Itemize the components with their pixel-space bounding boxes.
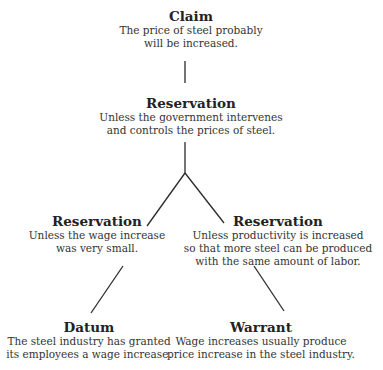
reservation-right-text-line: with the same amount of labor. (178, 255, 378, 268)
connector-lines (0, 0, 383, 370)
reservation-left-text-line: Unless the wage increase (22, 229, 172, 242)
claim-text-line: will be increased. (91, 37, 291, 50)
reservation-right-text-line: so that more steel can be produced (178, 242, 378, 255)
claim-text-line: The price of steel probably (91, 24, 291, 37)
reservation-main-text-line: Unless the government intervenes (71, 111, 311, 124)
reservation-main-title: Reservation (71, 96, 311, 111)
reservation-main-text-line: and controls the prices of steel. (71, 124, 311, 137)
warrant-title: Warrant (156, 320, 366, 335)
reservation-main-node: Reservation Unless the government interv… (71, 96, 311, 137)
datum-title: Datum (0, 320, 178, 335)
reservation-left-text-line: was very small. (22, 242, 172, 255)
warrant-text-line: price increase in the steel industry. (156, 348, 366, 361)
reservation-right-title: Reservation (178, 214, 378, 229)
datum-node: Datum The steel industry has granted its… (0, 320, 178, 361)
datum-text-line: The steel industry has granted (0, 335, 178, 348)
reservation-right-node: Reservation Unless productivity is incre… (178, 214, 378, 268)
warrant-node: Warrant Wage increases usually produce p… (156, 320, 366, 361)
warrant-text-line: Wage increases usually produce (156, 335, 366, 348)
claim-node: Claim The price of steel probably will b… (91, 9, 291, 50)
reservation-left-node: Reservation Unless the wage increase was… (22, 214, 172, 255)
claim-title: Claim (91, 9, 291, 24)
datum-text-line: its employees a wage increase. (0, 348, 178, 361)
edge-left-datum (91, 266, 123, 313)
reservation-right-text-line: Unless productivity is increased (178, 229, 378, 242)
edge-right-warrant (254, 266, 284, 311)
reservation-left-title: Reservation (22, 214, 172, 229)
